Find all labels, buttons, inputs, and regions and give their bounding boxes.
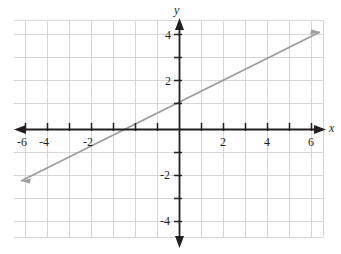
coordinate-plane-figure: -6 -4 -2 2 4 6 4 2 -2 -4 x y (0, 0, 341, 254)
x-tick-label-6: 6 (308, 136, 314, 148)
y-axis-ticks (174, 35, 182, 222)
y-tick-label-4: 4 (165, 29, 171, 41)
y-tick-label-neg4: -4 (160, 215, 170, 227)
x-axis (14, 125, 326, 134)
y-axis (175, 18, 184, 248)
y-axis-label: y (174, 4, 179, 16)
plotted-line (21, 29, 320, 183)
x-axis-label: x (329, 122, 334, 134)
x-tick-label-neg2: -2 (83, 136, 93, 148)
x-tick-label-neg6: -6 (17, 136, 27, 148)
x-tick-label-neg4: -4 (39, 136, 49, 148)
y-tick-label-neg2: -2 (160, 169, 170, 181)
y-tick-label-2: 2 (165, 75, 171, 87)
x-tick-label-2: 2 (220, 136, 226, 148)
x-tick-label-4: 4 (264, 136, 270, 148)
